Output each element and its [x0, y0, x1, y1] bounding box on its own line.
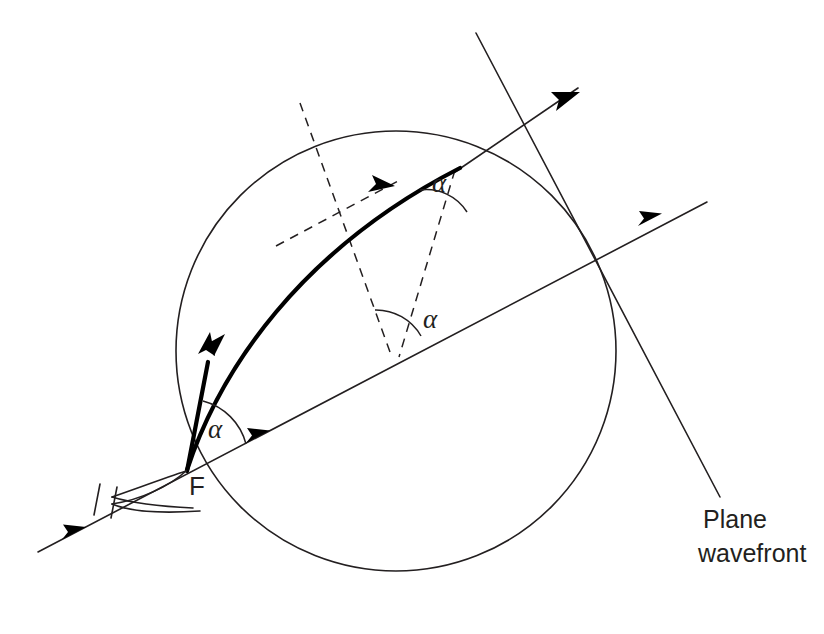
plane-wavefront-line: [476, 33, 720, 497]
angle-arc-middle: [375, 310, 421, 336]
normal-dashed-mid: [300, 103, 390, 352]
figure-root: α α α F Plane wavefront: [0, 0, 824, 634]
beam-envelope-lower: [112, 471, 186, 504]
chord-ray-arrow-right: [638, 211, 662, 226]
angle-label-top: α: [432, 168, 447, 198]
angle-label-middle: α: [423, 304, 438, 334]
chord-ray-arrow-mid: [246, 428, 270, 443]
waist-tick-left: [94, 484, 100, 515]
waist-tick-right: [111, 487, 117, 518]
lens-circle: [176, 131, 616, 571]
chord-ray-line: [38, 202, 707, 552]
wavefront-label-line1: Plane: [703, 505, 767, 533]
exit-ray-arrow: [551, 92, 580, 111]
chord-ray-arrow-left: [62, 525, 86, 540]
angle-label-bottom: α: [208, 414, 223, 444]
focus-label: F: [189, 471, 205, 501]
wavefront-label-line2: wavefront: [697, 539, 806, 567]
straight-bold-ray-arrow: [198, 332, 215, 356]
straight-bold-ray: [187, 362, 208, 471]
curved-ray-path: [187, 168, 460, 470]
optics-diagram-canvas: α α α F Plane wavefront: [0, 0, 824, 634]
